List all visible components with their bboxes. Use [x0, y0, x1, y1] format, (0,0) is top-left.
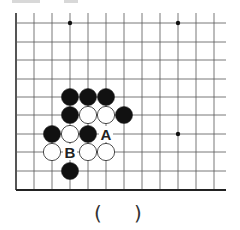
answer-paren-close: ) — [134, 201, 142, 225]
white-stone — [97, 143, 114, 160]
point-label-a: A — [101, 126, 112, 143]
black-stone — [61, 162, 78, 179]
white-stone — [79, 106, 96, 123]
black-stone — [79, 125, 96, 142]
point-label-b: B — [65, 144, 76, 161]
black-stone — [43, 125, 60, 142]
go-board: AB — [0, 0, 240, 200]
star-point — [68, 21, 72, 25]
white-stone — [97, 106, 114, 123]
white-stone — [79, 143, 96, 160]
star-point — [176, 132, 180, 136]
answer-paren-open: ( — [94, 201, 102, 225]
black-stone — [97, 88, 114, 105]
board-grid — [16, 13, 226, 190]
star-point — [176, 21, 180, 25]
white-stone — [43, 143, 60, 160]
white-stone — [61, 125, 78, 142]
black-stone — [61, 88, 78, 105]
black-stone — [115, 106, 132, 123]
black-stone — [79, 88, 96, 105]
black-stone — [61, 106, 78, 123]
